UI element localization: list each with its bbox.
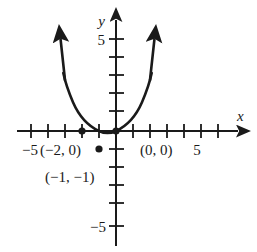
annotation-root-left: (−2, 0) bbox=[40, 142, 81, 159]
annotation-root-right: (0, 0) bbox=[140, 142, 173, 159]
point-root-left bbox=[78, 127, 85, 134]
y-tick-label-positive-5: 5 bbox=[98, 32, 106, 48]
x-tick-label-positive-5: 5 bbox=[193, 142, 201, 158]
graph-figure: −5 5 x 5 −5 y bbox=[0, 0, 257, 252]
point-root-right bbox=[112, 127, 119, 134]
y-axis-label: y bbox=[96, 13, 105, 29]
coordinate-plane: −5 5 x 5 −5 y bbox=[0, 0, 257, 252]
x-axis-label: x bbox=[236, 108, 244, 124]
x-tick-label-negative-5: −5 bbox=[22, 142, 38, 158]
point-vertex bbox=[95, 145, 102, 152]
parabola-path bbox=[63, 73, 151, 133]
point-annotations: (−2, 0) (0, 0) (−1, −1) bbox=[40, 142, 173, 186]
annotation-vertex: (−1, −1) bbox=[45, 169, 94, 186]
y-tick-label-negative-5: −5 bbox=[90, 219, 106, 235]
parabola-curve bbox=[61, 40, 155, 134]
